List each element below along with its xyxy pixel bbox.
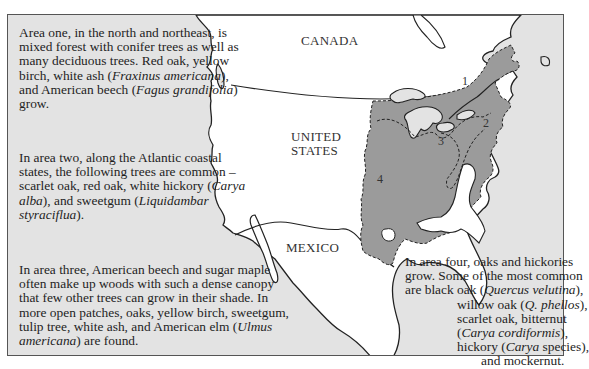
text-line: and mockernut. — [405, 354, 565, 368]
label-united: UNITED — [291, 129, 341, 144]
text-line: are black oak (Quercus velutina), — [405, 283, 565, 297]
label-states: STATES — [291, 143, 338, 158]
text-line: (Carya cordiformis), — [405, 326, 565, 340]
text: ), — [576, 282, 584, 297]
text: are black oak ( — [405, 282, 484, 297]
species-name: Carya cordiformis — [461, 325, 560, 340]
species-name: Carya — [506, 339, 539, 354]
text: In area two, along the Atlantic coastal … — [19, 150, 236, 193]
text: hickory ( — [457, 339, 506, 354]
species-name: Fagus grandifolia — [136, 82, 233, 97]
label-canada: CANADA — [301, 34, 358, 48]
species-name: Fraxinus americana — [112, 68, 221, 83]
text-line: hickory (Carya species), — [405, 340, 565, 354]
text: species), — [539, 339, 589, 354]
area-number-1: 1 — [462, 74, 468, 89]
text: ) are found. — [76, 333, 138, 348]
species-name: Quercus velutina — [484, 282, 575, 297]
area-two-description: In area two, along the Atlantic coastal … — [19, 151, 249, 222]
text-line: willow oak (Q. phellos), — [405, 298, 565, 312]
text: ), and sweetgum ( — [43, 193, 139, 208]
label-mexico: MEXICO — [286, 241, 339, 255]
area-number-3: 3 — [438, 134, 444, 149]
text: ). — [76, 207, 84, 222]
text-line: In area four, oaks and hickories — [405, 255, 565, 269]
area-number-2: 2 — [483, 116, 489, 131]
text: willow oak ( — [457, 297, 525, 312]
area-one-description: Area one, in the north and northeast, is… — [19, 26, 249, 111]
species-name: Q. phellos — [525, 297, 580, 312]
text-line: scarlet oak, bitternut — [405, 312, 565, 326]
area-four-description: In area four, oaks and hickories grow. S… — [405, 255, 565, 369]
text: ), — [580, 297, 588, 312]
text-line: grow. Some of the most common — [405, 269, 565, 283]
area-number-4: 4 — [377, 172, 383, 187]
area-three-description: In area three, American beech and sugar … — [19, 263, 289, 348]
label-united-states: UNITED STATES — [291, 130, 341, 158]
text: ), — [560, 325, 568, 340]
